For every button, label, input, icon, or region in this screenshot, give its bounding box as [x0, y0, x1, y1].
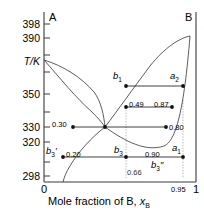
corner-label-a: A [49, 12, 56, 23]
y-tick-label-390: 390 [14, 33, 40, 44]
label-b3-dprime-mark: ″ [160, 159, 163, 170]
corner-label-b: B [185, 12, 192, 23]
x-axis-title-prefix: Mole fraction of B, [48, 195, 140, 207]
point-080 [164, 125, 168, 129]
curve-a-rich-liquidus [44, 60, 105, 127]
y-axis-title: T/K [14, 56, 40, 67]
value-label-087: 0.87 [154, 101, 169, 109]
label-a2-sub: 2 [175, 76, 179, 83]
x-tick-label-095: 0.95 [171, 186, 186, 194]
label-b3: b3 [114, 145, 123, 157]
x-axis-title: Mole fraction of B, xB [48, 196, 150, 209]
point-b3-prime [61, 155, 65, 159]
y-tick-label-350: 350 [14, 89, 40, 100]
y-tick-label-320: 320 [14, 137, 40, 148]
value-label-049: 0.49 [129, 101, 144, 109]
point-b1 [124, 84, 128, 88]
label-b3-sub: 3 [119, 150, 123, 157]
point-eutectic [103, 125, 107, 129]
point-a2 [181, 84, 185, 88]
value-label-090: 0.90 [145, 151, 160, 159]
label-b1: b1 [113, 71, 122, 83]
value-label-080: 0.80 [169, 124, 184, 132]
label-b3-double-prime: b3″ [151, 160, 163, 172]
value-label-030: 0.30 [52, 121, 67, 129]
point-a1 [181, 155, 185, 159]
y-tick-label-398: 398 [14, 19, 40, 30]
label-b1-sub: 1 [118, 76, 122, 83]
x-tick-label-1: 1 [193, 184, 199, 195]
point-030 [71, 125, 75, 129]
label-b3-prime-mark: ′ [55, 145, 57, 156]
label-a1: a1 [172, 143, 181, 155]
y-tick-label-330: 330 [14, 122, 40, 133]
point-049 [124, 105, 128, 109]
label-b3-prime: b3′ [46, 146, 57, 158]
value-label-066: 0.66 [127, 169, 142, 177]
value-label-020: 0.20 [66, 151, 81, 159]
label-a1-sub: 1 [177, 148, 181, 155]
label-a2: a2 [170, 71, 179, 83]
point-b3 [124, 155, 128, 159]
x-tick-label-0: 0 [41, 184, 47, 195]
y-tick-label-298: 298 [14, 171, 40, 182]
point-087 [170, 105, 174, 109]
phase-diagram-figure: 398 390 T/K 350 330 320 298 A B 0 0.95 1… [0, 0, 204, 211]
x-axis-title-subscript: B [145, 202, 150, 209]
